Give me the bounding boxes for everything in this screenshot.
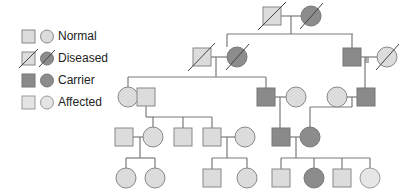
gen3-female-normal-1[interactable] [118,87,138,107]
legend-item-diseased: Diseased [0,49,120,69]
gen4-female-normal-2[interactable] [235,127,255,147]
legend-label-affected: Affected [58,95,102,109]
gen5-female-carrier[interactable] [304,168,324,188]
legend-item-normal: Normal [0,27,120,47]
gen1-male-diseased[interactable] [258,2,286,30]
legend-label-diseased: Diseased [58,51,108,65]
gen4-male-normal-3[interactable] [203,128,221,146]
gen3-female-normal-2[interactable] [286,87,306,107]
legend-label-carrier: Carrier [58,73,95,87]
gen4-male-normal-1[interactable] [115,128,133,146]
gen5-male-normal-1[interactable] [203,169,221,187]
gen1-female-diseased[interactable] [300,3,323,29]
generation-4 [115,127,320,147]
legend-label-normal: Normal [58,29,97,43]
gen3-male-normal[interactable] [137,88,155,106]
gen5-male-normal-3[interactable] [333,169,351,187]
gen2-female-diseased-light[interactable] [376,44,399,70]
gen2-male-carrier[interactable] [343,48,361,66]
gen4-female-carrier[interactable] [300,127,320,147]
gen4-male-normal-2[interactable] [174,128,192,146]
gen2-male-diseased[interactable] [188,43,215,71]
gen3-male-carrier-2[interactable] [357,88,375,106]
generation-5 [116,168,380,188]
gen4-male-carrier[interactable] [272,128,290,146]
gen5-female-affected[interactable] [360,168,380,188]
generation-3 [118,87,375,107]
legend-item-affected: Affected [0,93,120,113]
gen3-female-normal-3[interactable] [327,87,347,107]
gen2-female-diseased[interactable] [226,44,249,70]
gen5-female-normal-2[interactable] [145,168,165,188]
gen5-female-normal-1[interactable] [116,168,136,188]
gen4-female-normal-1[interactable] [143,127,163,147]
gen3-male-carrier-1[interactable] [257,88,275,106]
generation-2 [188,43,399,71]
gen5-female-normal-3[interactable] [237,168,257,188]
legend-item-carrier: Carrier [0,71,120,91]
pedigree-lines [126,16,377,169]
gen5-male-normal-2[interactable] [272,169,290,187]
generation-1 [258,2,323,30]
